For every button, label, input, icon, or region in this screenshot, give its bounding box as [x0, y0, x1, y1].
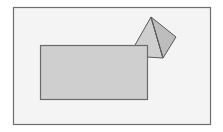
diagram-canvas: [0, 0, 223, 132]
rectangle-shape: [41, 46, 148, 100]
geometry-diagram: [0, 0, 223, 132]
